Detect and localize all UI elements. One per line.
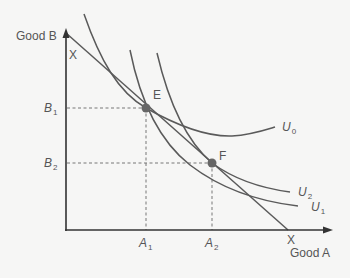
u2-label: U2 xyxy=(298,186,312,201)
y-axis-arrow-icon xyxy=(63,28,70,38)
x-axis-arrow-icon xyxy=(323,227,333,234)
y-axis-label: Good B xyxy=(16,30,57,42)
point-f-label: F xyxy=(219,150,226,162)
budget-line xyxy=(66,33,288,230)
curve-u2 xyxy=(157,53,290,192)
b1-label: B1 xyxy=(44,102,57,117)
u1-label: U1 xyxy=(311,201,325,216)
x-intercept-label: X xyxy=(287,234,295,246)
a1-label: A1 xyxy=(139,237,152,252)
point-e-label: E xyxy=(153,89,161,101)
point-e xyxy=(142,104,151,113)
u0-label: U0 xyxy=(282,121,296,136)
x-axis-label: Good A xyxy=(290,247,330,259)
point-f xyxy=(208,159,217,168)
indifference-curve-diagram: Good B Good A X X E F B1 B2 A1 A2 U0 U2 … xyxy=(0,0,350,278)
a2-label: A2 xyxy=(205,237,218,252)
y-intercept-label: X xyxy=(69,49,77,61)
b2-label: B2 xyxy=(44,157,57,172)
